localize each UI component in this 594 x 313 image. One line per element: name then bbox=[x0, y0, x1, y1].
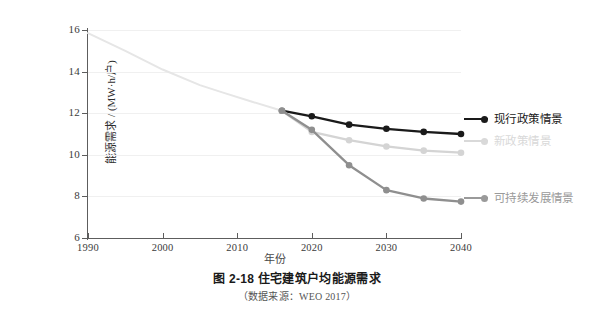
data-point bbox=[279, 107, 286, 114]
data-point bbox=[309, 127, 316, 134]
data-point bbox=[420, 129, 427, 136]
figure-source-note: （数据来源：WEO 2017） bbox=[0, 291, 594, 303]
data-point bbox=[346, 137, 353, 144]
legend-swatch-current-policies bbox=[464, 114, 488, 124]
figure-caption: 图 2-18 住宅建筑户均能源需求 bbox=[0, 272, 594, 286]
legend-label: 现行政策情景 bbox=[494, 113, 562, 125]
series-plot bbox=[0, 0, 594, 313]
legend-item-sustainable-development[interactable]: 可持续发展情景 bbox=[464, 192, 574, 204]
legend-swatch-new-policies bbox=[464, 136, 488, 146]
data-point bbox=[383, 143, 390, 150]
data-point bbox=[309, 113, 316, 120]
legend-item-new-policies[interactable]: 新政策情景 bbox=[464, 135, 551, 147]
data-point bbox=[420, 195, 427, 202]
legend-label: 可持续发展情景 bbox=[494, 192, 574, 204]
data-point bbox=[346, 121, 353, 128]
legend-item-current-policies[interactable]: 现行政策情景 bbox=[464, 113, 562, 125]
data-point bbox=[383, 187, 390, 194]
data-point bbox=[458, 149, 465, 156]
data-point bbox=[420, 147, 427, 154]
series-line bbox=[88, 33, 282, 111]
figure-container: 能源需求 / (MW·h/户) 16 14 12 10 8 6 1990 200… bbox=[0, 0, 594, 313]
legend-label: 新政策情景 bbox=[494, 135, 551, 147]
legend-swatch-sustainable-development bbox=[464, 193, 488, 203]
data-point bbox=[383, 126, 390, 133]
data-point bbox=[346, 162, 353, 169]
series-line bbox=[282, 111, 461, 202]
